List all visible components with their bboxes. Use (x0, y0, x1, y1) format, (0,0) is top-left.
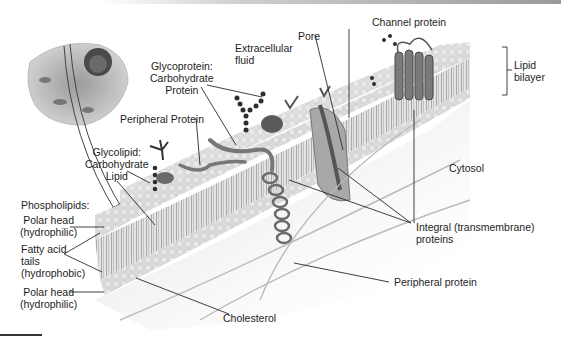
label-polar-head-bottom: Polar head (hydrophilic) (20, 286, 77, 310)
label-phospholipids: Phospholipids: (21, 199, 89, 211)
label-peripheral-protein-bottom: Peripheral protein (394, 276, 477, 288)
label-glycolipid: Glycolipid: Carbohydrate Lipid (85, 146, 149, 182)
bottom-rule (0, 334, 42, 336)
label-cytosol: Cytosol (449, 162, 484, 174)
label-glycoprotein: Glycoprotein: Carbohydrate Protein (150, 60, 214, 96)
cell-inset-icon (28, 43, 128, 218)
label-channel-protein: Channel protein (372, 16, 446, 28)
label-fatty-acid-tails: Fatty acid tails (hydrophobic) (21, 243, 85, 279)
label-polar-head-top: Polar head (hydrophilic) (20, 214, 77, 238)
label-lipid-bilayer: Lipid bilayer (514, 59, 545, 83)
label-cholesterol: Cholesterol (223, 312, 276, 324)
label-peripheral-protein-top: Peripheral Protein (120, 113, 204, 125)
label-extracellular-fluid: Extracellular fluid (235, 42, 293, 66)
label-integral-proteins: Integral (transmembrane) proteins (416, 221, 534, 245)
label-pore: Pore (298, 30, 320, 42)
